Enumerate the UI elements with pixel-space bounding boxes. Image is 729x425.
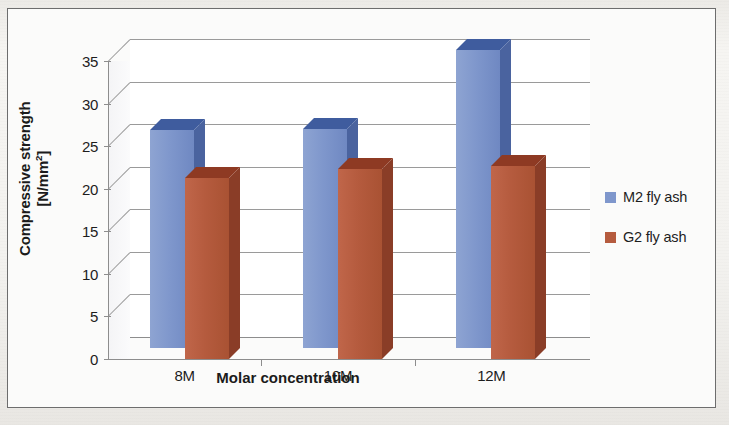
y-axis-tick-label: 30 <box>56 95 98 112</box>
x-axis-front-line <box>108 359 590 360</box>
y-axis-title-unit: [N/mm2] <box>34 59 52 299</box>
bar-8m-g2-fly-ash[interactable] <box>185 178 229 359</box>
bar-10m-g2-fly-ash[interactable] <box>338 169 382 359</box>
y-axis-title: Compressive strength [N/mm2] <box>16 59 52 299</box>
gridline <box>130 39 590 40</box>
y-axis-tick-label: 25 <box>56 138 98 155</box>
gridline-depth-connector <box>108 39 131 62</box>
bar-12m-g2-fly-ash[interactable] <box>491 166 535 359</box>
bar-front-face <box>491 166 535 359</box>
x-axis-tick-mark <box>261 359 262 366</box>
legend-item-g2-fly-ash[interactable]: G2 fly ash <box>605 229 687 245</box>
y-axis-tick-label: 10 <box>56 265 98 282</box>
legend-label: G2 fly ash <box>623 229 686 245</box>
legend-item-m2-fly-ash[interactable]: M2 fly ash <box>605 189 687 205</box>
y-axis-tick-label: 20 <box>56 180 98 197</box>
legend-swatch-icon <box>605 232 616 243</box>
chart-frame: 35302520151050 8M10M12M Compressive stre… <box>7 8 716 408</box>
y-axis-tick-label: 5 <box>56 308 98 325</box>
bar-front-face <box>338 169 382 359</box>
bar-front-face <box>185 178 229 359</box>
y-axis-line <box>108 61 109 359</box>
y-axis-tick-label: 0 <box>56 351 98 368</box>
gridline <box>130 82 590 83</box>
y-axis-tick-label: 35 <box>56 53 98 70</box>
chart-legend: M2 fly ashG2 fly ash <box>605 189 687 269</box>
bar-side-face <box>382 158 393 359</box>
y-axis-tick-label: 15 <box>56 223 98 240</box>
legend-swatch-icon <box>605 192 616 203</box>
x-axis-tick-mark <box>415 359 416 366</box>
chart-side-wall <box>108 61 130 359</box>
y-axis-title-main: Compressive strength <box>16 102 33 256</box>
bar-side-face <box>535 155 546 359</box>
bar-side-face <box>229 167 240 359</box>
plot-area: 35302520151050 8M10M12M Compressive stre… <box>8 9 715 407</box>
x-axis-title: Molar concentration <box>68 369 508 386</box>
legend-label: M2 fly ash <box>623 189 687 205</box>
